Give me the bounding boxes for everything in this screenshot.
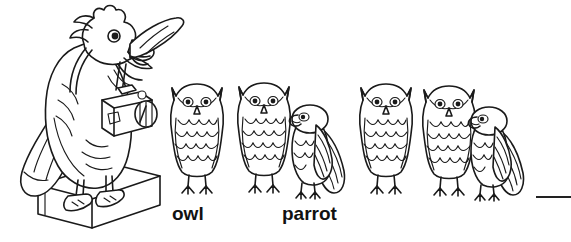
owl-legs bbox=[434, 177, 464, 196]
bird-4-owl bbox=[355, 75, 417, 199]
bird-3-parrot bbox=[286, 95, 350, 203]
bird-6-parrot bbox=[465, 97, 529, 205]
owl-body bbox=[238, 83, 291, 176]
owl-legs bbox=[182, 175, 212, 194]
blank-answer-line[interactable] bbox=[536, 196, 571, 198]
owl-body bbox=[171, 84, 224, 177]
worksheet-page: owl parrot bbox=[0, 0, 571, 242]
owl-legs bbox=[371, 175, 401, 194]
owl-legs bbox=[249, 174, 279, 193]
label-owl: owl bbox=[172, 203, 204, 225]
parrot-body bbox=[468, 107, 523, 195]
parrot-photographer bbox=[0, 0, 180, 242]
bird-1-owl bbox=[166, 76, 228, 198]
owl-body bbox=[360, 84, 413, 177]
label-parrot: parrot bbox=[282, 203, 337, 225]
parrot-body bbox=[289, 105, 344, 193]
